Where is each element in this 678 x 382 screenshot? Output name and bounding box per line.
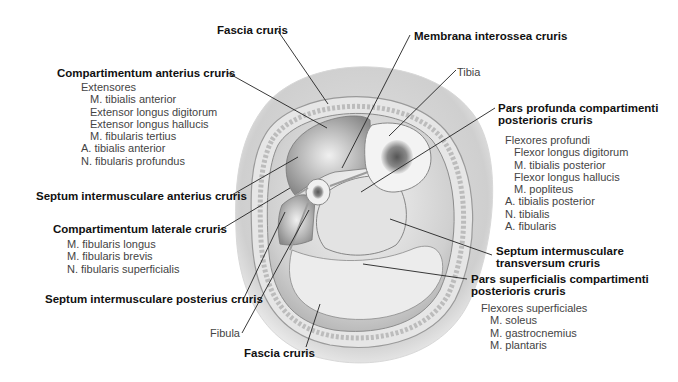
list-item: Extensor longus hallucis	[81, 118, 217, 130]
list-item: Flexor longus digitorum	[505, 146, 628, 158]
list-item: N. tibialis	[505, 208, 628, 220]
list-item: M. tibialis anterior	[81, 93, 217, 105]
list-item: M. fibularis brevis	[67, 250, 179, 262]
label-compartimentum-anterius: Compartimentum anterius cruris	[57, 67, 235, 79]
label-septum-anterius: Septum intermusculare anterius cruris	[36, 190, 247, 202]
superficial-posterior-contents-list: Flexores superficiales M. soleus M. gast…	[481, 302, 587, 351]
deep-posterior-contents-list: Flexores profundi Flexor longus digitoru…	[505, 134, 628, 232]
anterior-contents-list: Extensores M. tibialis anterior Extensor…	[81, 81, 217, 167]
list-item: A. fibularis	[505, 220, 628, 232]
list-item: Flexor longus hallucis	[505, 171, 628, 183]
list-item: Extensor longus digitorum	[81, 106, 217, 118]
label-pars-superficialis-line2: posterioris cruris	[471, 285, 566, 297]
list-item: Flexores profundi	[505, 134, 628, 146]
list-item: M. tibialis posterior	[505, 159, 628, 171]
label-septum-transversum-line1: Septum intermusculare	[496, 245, 624, 257]
list-item: Extensores	[81, 81, 217, 93]
label-septum-transversum-line2: transversum cruris	[496, 257, 600, 269]
label-compartimentum-laterale: Compartimentum laterale cruris	[53, 223, 227, 235]
list-item: N. fibularis superficialis	[67, 263, 179, 275]
label-pars-profunda-line1: Pars profunda compartimenti	[498, 102, 658, 114]
list-item: A. tibialis anterior	[81, 142, 217, 154]
fibula-bone	[306, 179, 330, 205]
label-membrana-interossea: Membrana interossea cruris	[414, 30, 567, 42]
label-fascia-cruris-bottom: Fascia cruris	[244, 347, 315, 359]
list-item: M. popliteus	[505, 183, 628, 195]
label-septum-posterius: Septum intermusculare posterius cruris	[45, 293, 263, 305]
label-fibula: Fibula	[210, 327, 240, 339]
list-item: M. fibularis tertius	[81, 130, 217, 142]
list-item: Flexores superficiales	[481, 302, 587, 314]
list-item: A. tibialis posterior	[505, 195, 628, 207]
list-item: M. soleus	[481, 314, 587, 326]
list-item: M. plantaris	[481, 339, 587, 351]
label-tibia: Tibia	[457, 66, 480, 78]
lateral-contents-list: M. fibularis longus M. fibularis brevis …	[67, 238, 179, 275]
label-pars-superficialis-line1: Pars superficialis compartimenti	[471, 273, 649, 285]
list-item: M. gastrocnemius	[481, 327, 587, 339]
label-pars-profunda-line2: posterioris cruris	[498, 114, 593, 126]
label-fascia-cruris-top: Fascia cruris	[217, 24, 288, 36]
list-item: N. fibularis profundus	[81, 155, 217, 167]
list-item: M. fibularis longus	[67, 238, 179, 250]
